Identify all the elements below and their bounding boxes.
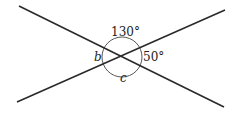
line-ascending [17,10,225,102]
angle-label-left: b [94,50,102,64]
angle-label-bottom: c [120,71,127,85]
angle-label-right: 50° [143,50,164,64]
angle-label-top: 130° [111,25,140,39]
intersecting-lines-diagram: 130° 50° b c [0,0,236,114]
